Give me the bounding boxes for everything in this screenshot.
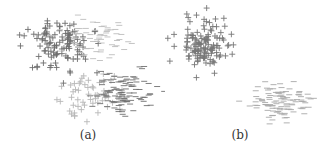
plus-marker — [70, 102, 76, 108]
plus-marker — [214, 53, 220, 59]
plus-marker — [185, 26, 191, 32]
plus-marker — [186, 56, 192, 62]
plus-marker — [211, 60, 217, 66]
panel-b: (b) — [165, 0, 330, 154]
plus-marker — [82, 82, 88, 88]
plus-marker — [78, 107, 84, 113]
plus-marker — [221, 15, 227, 21]
plus-marker — [171, 31, 177, 37]
plus-marker — [201, 23, 207, 29]
plus-marker — [226, 42, 232, 48]
scatter-plot-a — [0, 0, 165, 125]
plus-marker — [68, 82, 74, 88]
plus-marker — [228, 31, 234, 37]
plus-marker — [198, 33, 204, 39]
plus-marker — [225, 43, 231, 49]
plus-marker — [40, 60, 46, 66]
plus-marker — [212, 16, 218, 22]
plus-marker — [70, 56, 76, 62]
plus-marker — [229, 51, 235, 57]
plus-marker — [194, 29, 200, 35]
plus-marker — [77, 41, 83, 47]
plus-marker — [75, 97, 81, 103]
plus-marker — [81, 38, 87, 44]
plus-marker — [59, 34, 65, 40]
plus-marker — [84, 119, 90, 125]
plus-marker — [67, 70, 73, 76]
plus-marker — [31, 31, 37, 37]
plus-marker — [80, 99, 86, 105]
plus-marker — [80, 34, 86, 40]
plus-marker — [36, 53, 42, 59]
plus-marker — [54, 20, 60, 26]
plus-marker — [165, 35, 171, 41]
plus-marker — [34, 63, 40, 69]
plus-marker — [17, 43, 23, 49]
plus-marker — [206, 20, 212, 26]
plus-marker — [193, 12, 199, 18]
plus-marker — [89, 84, 95, 90]
plus-marker — [17, 32, 23, 38]
plus-marker — [57, 24, 63, 30]
plus-marker — [204, 5, 210, 11]
plus-marker — [101, 78, 107, 84]
plus-marker — [222, 53, 228, 59]
plus-marker — [213, 24, 219, 30]
plus-marker — [184, 39, 190, 45]
plus-marker — [81, 102, 87, 108]
panel-a: (a) — [0, 0, 165, 154]
plus-marker — [211, 70, 217, 76]
plus-marker — [78, 79, 84, 85]
plus-marker — [92, 28, 98, 34]
plus-marker — [192, 62, 198, 68]
plus-marker — [37, 43, 43, 49]
plus-marker — [210, 58, 216, 64]
plus-marker — [42, 48, 48, 54]
plus-marker — [75, 103, 81, 109]
series-minus — [236, 82, 317, 124]
caption-b: (b) — [220, 128, 260, 142]
plus-marker — [45, 45, 51, 51]
series-plus — [165, 5, 236, 81]
plus-marker — [25, 26, 31, 32]
plus-marker — [184, 11, 190, 17]
plus-marker — [71, 21, 77, 27]
plus-marker — [218, 30, 224, 36]
plus-marker — [94, 70, 100, 76]
plus-marker — [85, 77, 91, 83]
plus-marker — [34, 35, 40, 41]
plus-marker — [35, 32, 41, 38]
plus-marker — [86, 91, 92, 97]
plus-marker — [71, 81, 77, 87]
plus-marker — [39, 37, 45, 43]
plus-marker — [167, 58, 173, 64]
plus-marker — [69, 94, 75, 100]
plus-marker — [208, 28, 214, 34]
scatter-plot-b — [165, 0, 330, 125]
plus-marker — [30, 65, 36, 71]
plus-marker — [201, 26, 207, 32]
caption-a: (a) — [68, 128, 108, 142]
plus-marker — [95, 110, 101, 116]
plus-marker — [75, 87, 81, 93]
plus-marker — [54, 64, 60, 70]
plus-marker — [90, 85, 96, 91]
plus-marker — [21, 33, 27, 39]
plus-marker — [193, 75, 199, 81]
plus-marker — [85, 84, 91, 90]
series-minus-dark — [87, 66, 165, 116]
plus-marker — [222, 23, 228, 29]
plus-marker — [100, 71, 106, 77]
plus-marker — [171, 43, 177, 49]
